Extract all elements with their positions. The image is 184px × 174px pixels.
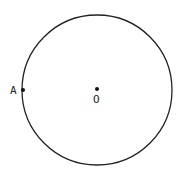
geometry-diagram: A O	[0, 0, 184, 174]
label-o: O	[93, 93, 100, 106]
point-o-center	[95, 87, 99, 91]
label-a: A	[10, 84, 17, 97]
point-a	[21, 88, 25, 92]
